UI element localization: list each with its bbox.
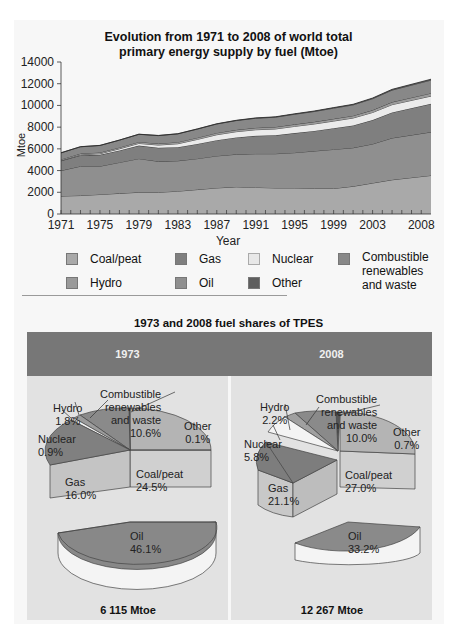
label-pct: 10.0%: [316, 432, 377, 445]
label-text: Gas: [65, 476, 96, 489]
label-text: Hydro: [53, 402, 82, 415]
label-2008-nuclear: Nuclear 5.8%: [244, 438, 282, 464]
label-pct: 46.1%: [130, 543, 161, 556]
label-text: renewables: [100, 401, 161, 414]
label-2008-hydro: Hydro 2.2%: [260, 401, 289, 427]
label-pct: 0.9%: [38, 446, 76, 459]
label-text: Oil: [130, 530, 161, 543]
label-1973-combustible: Combustible renewables and waste 10.6%: [100, 388, 161, 440]
label-pct: 1.8%: [53, 415, 82, 428]
label-pct: 2.2%: [260, 414, 289, 427]
label-pct: 24.5%: [136, 481, 183, 494]
label-1973-coal: Coal/peat 24.5%: [136, 468, 183, 494]
label-pct: 33.2%: [348, 543, 379, 556]
label-pct: 21.1%: [268, 495, 299, 508]
label-text: Combustible: [316, 393, 377, 406]
label-2008-coal: Coal/peat 27.0%: [345, 469, 392, 495]
label-text: Coal/peat: [136, 468, 183, 481]
label-2008-combustible: Combustible renewables and waste 10.0%: [316, 393, 377, 445]
label-1973-gas: Gas 16.0%: [65, 476, 96, 502]
label-pct: 16.0%: [65, 489, 96, 502]
label-text: Nuclear: [244, 438, 282, 451]
label-text: Nuclear: [38, 433, 76, 446]
label-pct: 5.8%: [244, 451, 282, 464]
label-2008-oil: Oil 33.2%: [348, 530, 379, 556]
label-text: Other: [184, 420, 212, 433]
label-pct: 10.6%: [100, 427, 161, 440]
label-text: Other: [393, 426, 421, 439]
label-text: Combustible: [100, 388, 161, 401]
label-1973-hydro: Hydro 1.8%: [53, 402, 82, 428]
pie-charts: [0, 0, 457, 636]
label-pct: 0.7%: [393, 439, 421, 452]
label-text: Coal/peat: [345, 469, 392, 482]
label-text: Gas: [268, 482, 299, 495]
total-2008: 12 267 Mtoe: [232, 604, 432, 616]
label-1973-nuclear: Nuclear 0.9%: [38, 433, 76, 459]
label-text: Hydro: [260, 401, 289, 414]
label-pct: 0.1%: [184, 433, 212, 446]
label-text: Oil: [348, 530, 379, 543]
label-text: and waste: [316, 419, 377, 432]
label-1973-oil: Oil 46.1%: [130, 530, 161, 556]
total-1973: 6 115 Mtoe: [28, 604, 228, 616]
label-text: renewables: [316, 406, 377, 419]
label-text: and waste: [100, 414, 161, 427]
label-2008-other: Other 0.7%: [393, 426, 421, 452]
label-1973-other: Other 0.1%: [184, 420, 212, 446]
label-2008-gas: Gas 21.1%: [268, 482, 299, 508]
label-pct: 27.0%: [345, 482, 392, 495]
